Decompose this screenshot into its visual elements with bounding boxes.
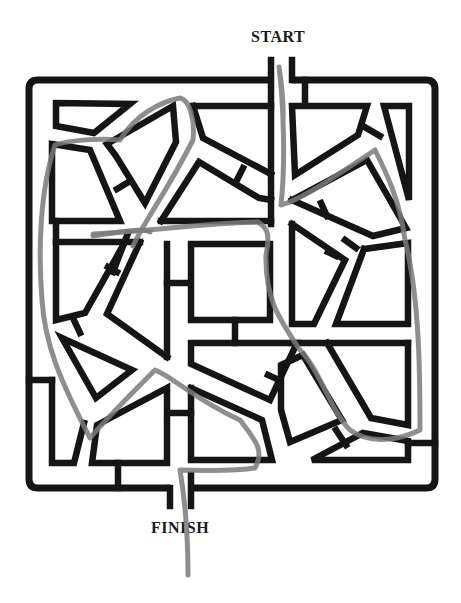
solution-path-main xyxy=(40,98,259,575)
maze-board[interactable] xyxy=(0,0,461,603)
